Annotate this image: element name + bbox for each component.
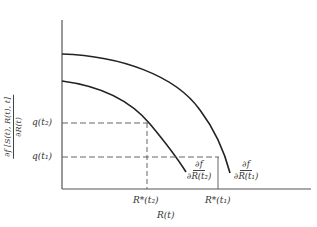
curve-t1-upper bbox=[62, 54, 230, 173]
y-tick-q-t2: q(t₂) bbox=[32, 118, 52, 127]
y-tick-q-t1: q(t₁) bbox=[32, 152, 52, 161]
x-tick-r-star-t2: R*(t₂) bbox=[133, 196, 159, 205]
curve-label-t1-denominator: ∂R(t₁) bbox=[234, 171, 258, 181]
curve-label-t2: ∂f ∂R(t₂) bbox=[187, 160, 211, 181]
curve-label-t2-numerator: ∂f bbox=[193, 160, 205, 171]
curve-label-t1-numerator: ∂f bbox=[240, 160, 252, 171]
curve-label-t2-denominator: ∂R(t₂) bbox=[187, 171, 211, 181]
x-axis-label: R(t) bbox=[157, 211, 174, 220]
y-axis-label-numerator: ∂f [S(t), R(t), t] bbox=[4, 95, 14, 159]
curve-t2-lower bbox=[62, 81, 186, 172]
y-axis-label: ∂f [S(t), R(t), t] ∂R(t) bbox=[4, 95, 24, 159]
diagram-canvas bbox=[0, 0, 317, 227]
curve-label-t1: ∂f ∂R(t₁) bbox=[234, 160, 258, 181]
x-tick-r-star-t1: R*(t₁) bbox=[205, 196, 231, 205]
y-axis-label-denominator: ∂R(t) bbox=[14, 117, 23, 137]
